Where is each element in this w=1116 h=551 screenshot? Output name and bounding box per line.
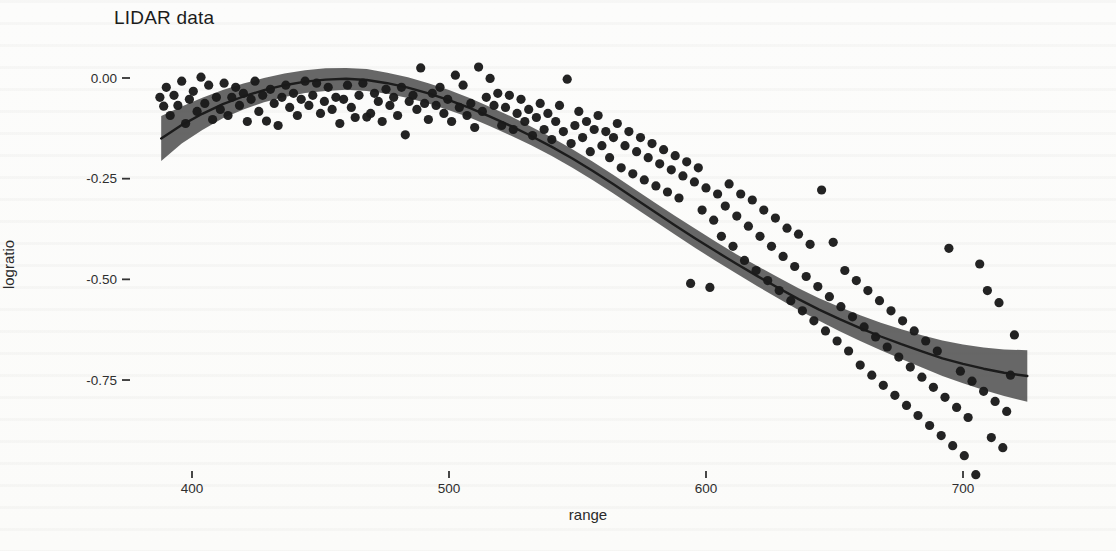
data-point <box>551 117 560 126</box>
data-point <box>347 103 356 112</box>
data-point <box>786 296 795 305</box>
data-point <box>462 111 471 120</box>
plot-area: 4005006007000.00-0.25-0.50-0.75 <box>0 0 1116 551</box>
data-point <box>470 123 479 132</box>
data-point <box>998 443 1007 452</box>
data-point <box>524 105 533 114</box>
data-point <box>177 77 186 86</box>
data-point <box>674 193 683 202</box>
data-point <box>863 286 872 295</box>
data-point <box>971 470 980 479</box>
data-point <box>755 232 764 241</box>
data-point <box>651 181 660 190</box>
data-point <box>775 286 784 295</box>
data-point <box>682 157 691 166</box>
data-point <box>351 113 360 122</box>
data-point <box>686 279 695 288</box>
data-point <box>617 163 626 172</box>
data-point <box>721 202 730 211</box>
data-point <box>277 93 286 102</box>
data-point <box>223 111 232 120</box>
data-point <box>829 238 838 247</box>
data-point <box>902 401 911 410</box>
data-point <box>420 99 429 108</box>
data-point <box>964 413 973 422</box>
data-point <box>779 252 788 261</box>
data-point <box>925 421 934 430</box>
data-point <box>890 391 899 400</box>
data-point <box>975 259 984 268</box>
data-point <box>328 105 337 114</box>
data-point <box>354 91 363 100</box>
data-point <box>991 397 1000 406</box>
data-point <box>358 79 367 88</box>
data-point <box>381 85 390 94</box>
data-point <box>513 109 522 118</box>
data-point <box>759 206 768 215</box>
data-point <box>366 109 375 118</box>
data-point <box>451 71 460 80</box>
data-point <box>505 91 514 100</box>
data-point <box>520 117 529 126</box>
data-point <box>852 276 861 285</box>
data-point <box>967 377 976 386</box>
y-axis-tick-label: 0.00 <box>91 71 117 86</box>
data-point <box>809 316 818 325</box>
data-point <box>763 276 772 285</box>
y-axis-tick-label: -0.75 <box>86 373 117 388</box>
data-point <box>239 89 248 98</box>
data-point <box>983 286 992 295</box>
data-point <box>667 165 676 174</box>
data-point <box>601 127 610 136</box>
data-point <box>582 117 591 126</box>
data-point <box>867 371 876 380</box>
data-point <box>474 63 483 72</box>
data-point <box>740 256 749 265</box>
data-point <box>979 387 988 396</box>
data-point <box>312 79 321 88</box>
data-point <box>1002 407 1011 416</box>
data-point <box>921 336 930 345</box>
data-point <box>933 346 942 355</box>
data-point <box>732 212 741 221</box>
data-point <box>567 139 576 148</box>
data-point <box>767 242 776 251</box>
data-point <box>709 216 718 225</box>
x-axis-tick-label: 700 <box>952 481 975 496</box>
data-point <box>274 121 283 130</box>
data-point <box>397 83 406 92</box>
data-point <box>570 121 579 130</box>
data-point <box>285 103 294 112</box>
data-point <box>166 111 175 120</box>
data-point <box>428 89 437 98</box>
data-point <box>196 73 205 82</box>
data-point <box>937 431 946 440</box>
data-point <box>493 89 502 98</box>
data-point <box>898 316 907 325</box>
data-point <box>1010 330 1019 339</box>
data-point <box>736 189 745 198</box>
data-point <box>879 381 888 390</box>
data-point <box>247 95 256 104</box>
data-point <box>227 93 236 102</box>
data-point <box>671 151 680 160</box>
data-point <box>613 119 622 128</box>
data-point <box>620 141 629 150</box>
data-point <box>913 411 922 420</box>
data-point <box>455 103 464 112</box>
data-point <box>335 119 344 128</box>
data-point <box>844 346 853 355</box>
data-point <box>270 99 279 108</box>
data-point <box>790 262 799 271</box>
data-point <box>466 99 475 108</box>
data-point <box>678 171 687 180</box>
data-point <box>389 93 398 102</box>
data-point <box>725 179 734 188</box>
data-point <box>385 101 394 110</box>
data-point <box>848 312 857 321</box>
data-point <box>343 81 352 90</box>
data-point <box>794 230 803 239</box>
data-point <box>717 232 726 241</box>
data-point <box>173 101 182 110</box>
data-point <box>636 133 645 142</box>
